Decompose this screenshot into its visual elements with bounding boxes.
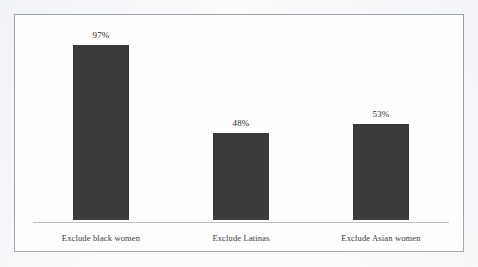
chart-frame: 97% Exclude black women 48% Exclude Lati… (14, 14, 464, 252)
category-axis-line (33, 222, 449, 223)
plot-area: 97% Exclude black women 48% Exclude Lati… (15, 15, 463, 251)
bar-2[interactable] (353, 124, 409, 220)
bar-group-2[interactable]: 53% (353, 124, 409, 220)
bar-value-label-0: 97% (92, 30, 109, 40)
bar-value-label-1: 48% (232, 118, 249, 128)
bar-group-1[interactable]: 48% (213, 133, 269, 220)
bar-group-0[interactable]: 97% (73, 45, 129, 220)
category-label-1: Exclude Latinas (187, 233, 295, 243)
category-label-2: Exclude Asian women (323, 233, 439, 243)
category-label-0: Exclude black women (45, 233, 157, 243)
bar-1[interactable] (213, 133, 269, 220)
bar-0[interactable] (73, 45, 129, 220)
bar-value-label-2: 53% (372, 109, 389, 119)
